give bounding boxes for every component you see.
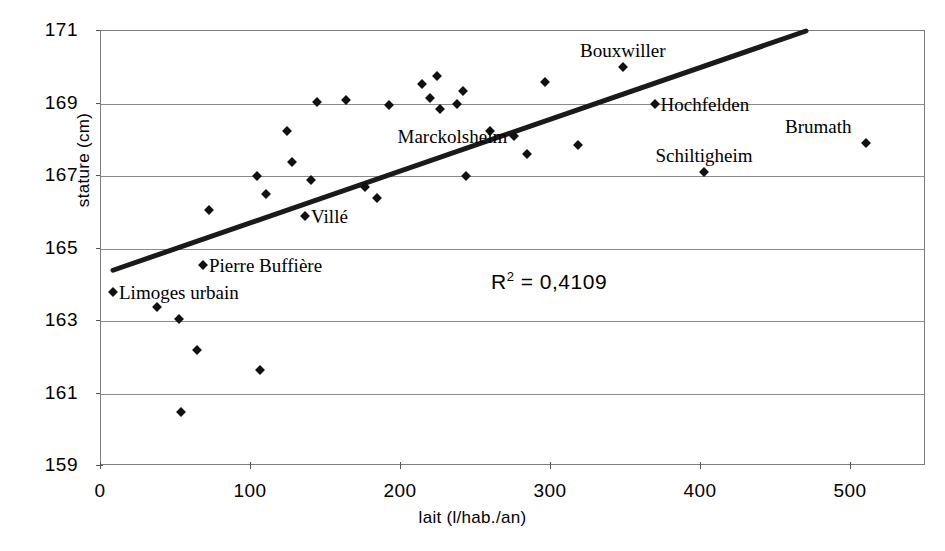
point-label: Villé	[311, 207, 348, 226]
x-tick-label: 300	[515, 481, 585, 500]
point-label: Hochfelden	[661, 95, 750, 114]
y-tick-label: 159	[22, 455, 78, 474]
r2-equals: =	[514, 270, 539, 293]
x-axis-title: lait (l/hab./an)	[0, 508, 945, 528]
x-tick-mark	[100, 462, 101, 469]
point-label: Marckolsheim	[398, 127, 508, 146]
point-label: Schiltigheim	[656, 146, 753, 165]
y-tick-label: 163	[22, 310, 78, 329]
y-tick-label: 161	[22, 383, 78, 402]
x-tick-mark	[400, 462, 401, 469]
scatter-chart-figure: stature (cm) 159161163165167169171 Limog…	[0, 0, 945, 551]
point-label: Pierre Buffière	[209, 256, 322, 275]
x-tick-mark	[550, 462, 551, 469]
r2-symbol: R	[491, 270, 507, 293]
point-label: Bouxwiller	[580, 41, 666, 60]
y-tick-label: 171	[22, 20, 78, 39]
y-tick-label: 165	[22, 238, 78, 257]
x-tick-label: 500	[815, 481, 885, 500]
x-tick-label: 200	[365, 481, 435, 500]
r-squared-annotation: R2 = 0,4109	[491, 269, 607, 294]
point-label: Limoges urbain	[119, 283, 239, 302]
trendline	[101, 31, 926, 466]
x-tick-mark	[850, 462, 851, 469]
x-tick-mark	[700, 462, 701, 469]
r2-value: 0,4109	[540, 270, 607, 293]
y-tick-label: 167	[22, 165, 78, 184]
y-tick-label: 169	[22, 93, 78, 112]
plot-area: Limoges urbainPierre BuffièreVilléMarcko…	[100, 30, 925, 465]
x-tick-label: 400	[665, 481, 735, 500]
x-tick-label: 0	[65, 481, 135, 500]
point-label: Brumath	[785, 117, 852, 136]
x-tick-mark	[250, 462, 251, 469]
x-tick-label: 100	[215, 481, 285, 500]
